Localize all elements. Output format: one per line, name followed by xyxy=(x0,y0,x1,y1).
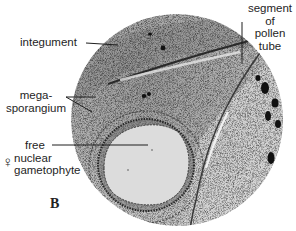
female-symbol-icon: ♀ xyxy=(2,154,13,169)
label-gametophyte: gametophyte xyxy=(14,164,81,176)
label-nuclear: nuclear xyxy=(14,152,52,164)
label-megasporangium-line2: sporangium xyxy=(4,102,68,115)
panel-letter: B xyxy=(50,196,59,212)
label-pollen-tube-line2: of xyxy=(244,15,296,28)
label-pollen-tube: segment of pollen tube xyxy=(244,2,296,52)
label-free: free xyxy=(25,139,45,151)
label-integument: integument xyxy=(20,36,77,48)
label-pollen-tube-line4: tube xyxy=(244,40,296,53)
label-pollen-tube-line3: pollen xyxy=(244,27,296,40)
label-pollen-tube-line1: segment xyxy=(244,2,296,15)
label-megasporangium: mega- sporangium xyxy=(4,89,68,115)
label-megasporangium-line1: mega- xyxy=(4,89,68,102)
